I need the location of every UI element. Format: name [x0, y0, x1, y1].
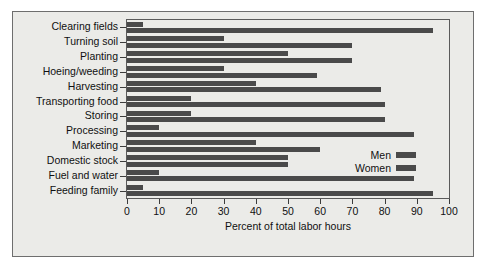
- x-tick-30: [224, 199, 225, 204]
- bar-men-planting: [127, 51, 288, 56]
- bar-row: [127, 65, 449, 80]
- category-tick: [120, 146, 126, 147]
- category-label-clearing-fields: Clearing fields: [51, 21, 118, 32]
- bar-women-storing: [127, 117, 385, 122]
- bar-men-domestic-stock: [127, 155, 288, 160]
- x-tick-label-100: 100: [434, 205, 464, 217]
- bar-row: [127, 183, 449, 198]
- legend-label-women: Women: [355, 162, 391, 174]
- bar-row: [127, 109, 449, 124]
- category-tick: [120, 27, 126, 28]
- category-tick: [120, 176, 126, 177]
- bar-women-processing: [127, 132, 414, 137]
- x-tick-20: [191, 199, 192, 204]
- category-tick: [120, 102, 126, 103]
- category-tick: [120, 116, 126, 117]
- bar-women-hoeing-weeding: [127, 73, 317, 78]
- bar-women-domestic-stock: [127, 162, 288, 167]
- x-tick-label-90: 90: [402, 205, 432, 217]
- bar-women-clearing-fields: [127, 28, 433, 33]
- x-axis-title: Percent of total labor hours: [126, 220, 450, 232]
- bar-women-transporting-food: [127, 102, 385, 107]
- x-tick-10: [159, 199, 160, 204]
- category-label-processing: Processing: [66, 125, 118, 136]
- x-tick-label-80: 80: [370, 205, 400, 217]
- x-tick-label-10: 10: [144, 205, 174, 217]
- x-tick-label-30: 30: [209, 205, 239, 217]
- category-tick: [120, 131, 126, 132]
- legend-item-men: Men: [355, 148, 416, 161]
- category-tick: [120, 42, 126, 43]
- bar-men-fuel-and-water: [127, 170, 159, 175]
- x-tick-70: [352, 199, 353, 204]
- chart-legend: Men Women: [355, 148, 416, 174]
- bar-women-feeding-family: [127, 191, 433, 196]
- x-tick-label-20: 20: [176, 205, 206, 217]
- bar-men-processing: [127, 125, 159, 130]
- x-tick-label-70: 70: [337, 205, 367, 217]
- bar-men-hoeing-weeding: [127, 66, 224, 71]
- x-tick-50: [288, 199, 289, 204]
- x-tick-60: [320, 199, 321, 204]
- x-tick-80: [385, 199, 386, 204]
- x-tick-90: [417, 199, 418, 204]
- bar-men-marketing: [127, 140, 256, 145]
- bar-row: [127, 50, 449, 65]
- bar-row: [127, 79, 449, 94]
- category-label-transporting-food: Transporting food: [36, 96, 118, 107]
- legend-swatch-men: [396, 152, 416, 158]
- category-label-planting: Planting: [80, 51, 118, 62]
- figure-canvas: Clearing fieldsTurning soilPlantingHoein…: [0, 0, 487, 270]
- bar-men-transporting-food: [127, 96, 191, 101]
- bar-row: [127, 20, 449, 35]
- x-tick-label-0: 0: [112, 205, 142, 217]
- bar-women-fuel-and-water: [127, 176, 414, 181]
- category-label-marketing: Marketing: [72, 140, 118, 151]
- x-tick-label-50: 50: [273, 205, 303, 217]
- bar-men-turning-soil: [127, 36, 224, 41]
- legend-item-women: Women: [355, 161, 416, 174]
- bar-men-clearing-fields: [127, 22, 143, 27]
- bar-men-feeding-family: [127, 185, 143, 190]
- category-tick: [120, 57, 126, 58]
- bar-women-planting: [127, 58, 352, 63]
- bar-men-storing: [127, 111, 191, 116]
- bar-row: [127, 94, 449, 109]
- bar-row: [127, 124, 449, 139]
- category-label-harvesting: Harvesting: [68, 81, 118, 92]
- bar-men-harvesting: [127, 81, 256, 86]
- category-label-fuel-and-water: Fuel and water: [49, 170, 118, 181]
- legend-label-men: Men: [371, 149, 391, 161]
- bar-women-marketing: [127, 147, 320, 152]
- bar-row: [127, 35, 449, 50]
- x-tick-label-60: 60: [305, 205, 335, 217]
- x-tick-label-40: 40: [241, 205, 271, 217]
- category-label-turning-soil: Turning soil: [64, 36, 118, 47]
- category-tick: [120, 72, 126, 73]
- category-label-domestic-stock: Domestic stock: [47, 155, 118, 166]
- x-tick-40: [256, 199, 257, 204]
- category-label-storing: Storing: [85, 110, 118, 121]
- bar-women-turning-soil: [127, 43, 352, 48]
- legend-swatch-women: [396, 165, 416, 171]
- category-tick: [120, 87, 126, 88]
- bar-women-harvesting: [127, 87, 381, 92]
- x-tick-100: [449, 199, 450, 204]
- category-tick: [120, 191, 126, 192]
- category-label-feeding-family: Feeding family: [50, 185, 118, 196]
- x-tick-0: [127, 199, 128, 204]
- category-tick: [120, 161, 126, 162]
- category-label-hoeing-weeding: Hoeing/weeding: [43, 66, 118, 77]
